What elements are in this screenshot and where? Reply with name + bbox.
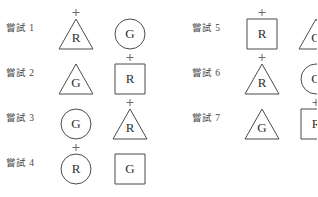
- stimulus-slot[interactable]: R: [240, 55, 284, 97]
- trial-row: 嘗試 3GR: [6, 98, 166, 142]
- stimulus-slot[interactable]: G: [54, 100, 98, 142]
- stimulus-letter: G: [112, 27, 148, 41]
- trial-row: 嘗試 2GR: [6, 53, 166, 97]
- circle-shape[interactable]: G: [112, 18, 148, 50]
- trial-row: 嘗試 4RG: [6, 143, 166, 187]
- triangle-shape[interactable]: R: [244, 63, 280, 95]
- stimulus-slot[interactable]: G: [294, 55, 317, 97]
- circle-shape[interactable]: G: [58, 108, 94, 140]
- stimulus-letter: R: [244, 27, 280, 41]
- stimulus-letter: G: [298, 31, 317, 45]
- trial-label: 嘗試 4: [6, 157, 34, 169]
- square-shape[interactable]: G: [112, 153, 148, 185]
- trial-label: 嘗試 5: [192, 22, 220, 34]
- stimulus-slot[interactable]: R: [108, 100, 152, 142]
- stimulus-letter: R: [112, 72, 148, 86]
- trial-label: 嘗試 6: [192, 67, 220, 79]
- stimulus-sheet: 嘗試 1RG嘗試 2GR嘗試 3GR嘗試 4RG 嘗試 5RG嘗試 6RG嘗試 …: [0, 0, 317, 197]
- plus-mark-icon: [313, 99, 318, 106]
- stimulus-slot[interactable]: R: [54, 10, 98, 52]
- stimulus-letter: G: [58, 76, 94, 90]
- stimulus-letter: R: [58, 31, 94, 45]
- trial-label: 嘗試 7: [192, 112, 220, 124]
- stimulus-slot[interactable]: G: [294, 10, 317, 52]
- trial-label: 嘗試 2: [6, 67, 34, 79]
- stimulus-slot[interactable]: G: [240, 100, 284, 142]
- trial-label: 嘗試 1: [6, 22, 34, 34]
- stimulus-slot[interactable]: G: [108, 10, 152, 52]
- triangle-shape[interactable]: R: [58, 18, 94, 50]
- stimulus-slot[interactable]: R: [294, 100, 317, 142]
- circle-shape[interactable]: R: [58, 153, 94, 185]
- stimulus-letter: G: [298, 72, 317, 86]
- plus-mark-icon: [73, 144, 80, 151]
- square-shape[interactable]: R: [244, 18, 280, 50]
- triangle-shape[interactable]: G: [58, 63, 94, 95]
- trial-row: 嘗試 1RG: [6, 8, 166, 52]
- plus-mark-icon: [259, 54, 266, 61]
- triangle-shape[interactable]: R: [112, 108, 148, 140]
- stimulus-letter: R: [298, 117, 317, 131]
- triangle-shape[interactable]: G: [298, 18, 317, 50]
- plus-mark-icon: [259, 9, 266, 16]
- circle-shape[interactable]: G: [298, 63, 317, 95]
- stimulus-letter: G: [58, 117, 94, 131]
- stimulus-slot[interactable]: G: [108, 145, 152, 187]
- trial-row: 嘗試 6RG: [192, 53, 317, 97]
- plus-mark-icon: [127, 99, 134, 106]
- triangle-shape[interactable]: G: [244, 108, 280, 140]
- plus-mark-icon: [73, 9, 80, 16]
- square-shape[interactable]: R: [112, 63, 148, 95]
- stimulus-letter: R: [58, 162, 94, 176]
- trial-label: 嘗試 3: [6, 112, 34, 124]
- stimulus-letter: G: [112, 162, 148, 176]
- stimulus-letter: G: [244, 121, 280, 135]
- stimulus-slot[interactable]: R: [108, 55, 152, 97]
- stimulus-letter: R: [112, 121, 148, 135]
- stimulus-slot[interactable]: G: [54, 55, 98, 97]
- trial-row: 嘗試 7GR: [192, 98, 317, 142]
- stimulus-slot[interactable]: R: [54, 145, 98, 187]
- square-shape[interactable]: R: [298, 108, 317, 140]
- plus-mark-icon: [127, 54, 134, 61]
- trial-row: 嘗試 5RG: [192, 8, 317, 52]
- stimulus-slot[interactable]: R: [240, 10, 284, 52]
- stimulus-letter: R: [244, 76, 280, 90]
